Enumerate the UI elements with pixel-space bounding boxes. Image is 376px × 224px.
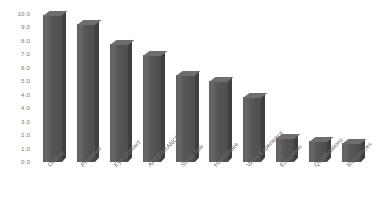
bar-slot bbox=[43, 14, 61, 162]
bar-slot bbox=[342, 14, 360, 162]
bar-slot bbox=[309, 14, 327, 162]
bar-slot bbox=[110, 14, 128, 162]
y-axis-tick-label: 5.0 bbox=[0, 78, 30, 84]
y-axis-tick-label: 3.0 bbox=[0, 119, 30, 125]
y-axis-tick-label: 10.0 bbox=[0, 11, 30, 17]
bar bbox=[110, 44, 128, 162]
y-axis-tick-label: 2.0 bbox=[0, 132, 30, 138]
bar-front-face bbox=[43, 15, 61, 162]
bar-slot bbox=[209, 14, 227, 162]
x-axis: OntimePreparedEye ContactAPPEARANCESmall… bbox=[36, 163, 368, 224]
bar-front-face bbox=[110, 44, 128, 162]
bar-slot bbox=[143, 14, 161, 162]
bar-chart: 10.09.08.07.06.05.04.04.03.02.01.00.0 On… bbox=[0, 0, 376, 224]
bar bbox=[77, 24, 95, 162]
bar-slot bbox=[77, 14, 95, 162]
y-axis-tick-label: 7.0 bbox=[0, 51, 30, 57]
bar-slot bbox=[243, 14, 261, 162]
y-axis-tick-label: 4.0 bbox=[0, 105, 30, 111]
y-axis: 10.09.08.07.06.05.04.04.03.02.01.00.0 bbox=[0, 14, 34, 162]
y-axis-tick-label: 9.0 bbox=[0, 24, 30, 30]
bar-slot bbox=[276, 14, 294, 162]
plot-area bbox=[36, 14, 368, 162]
y-axis-tick-label: 4.0 bbox=[0, 92, 30, 98]
bar bbox=[43, 15, 61, 162]
y-axis-tick-label: 8.0 bbox=[0, 38, 30, 44]
bar-front-face bbox=[143, 55, 161, 162]
bar-side-face bbox=[95, 20, 99, 162]
y-axis-tick-label: 0.0 bbox=[0, 159, 30, 165]
bar bbox=[143, 55, 161, 162]
bar-front-face bbox=[77, 24, 95, 162]
y-axis-tick-label: 1.0 bbox=[0, 145, 30, 151]
bar-side-face bbox=[62, 11, 66, 162]
y-axis-tick-label: 6.0 bbox=[0, 65, 30, 71]
